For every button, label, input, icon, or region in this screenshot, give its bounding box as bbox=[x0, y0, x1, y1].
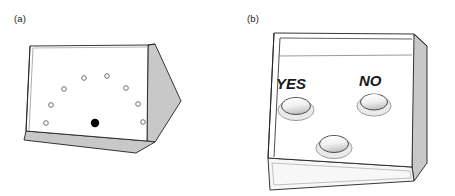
no-button-cap bbox=[361, 94, 388, 110]
open-marker bbox=[124, 86, 129, 91]
open-marker bbox=[141, 120, 146, 125]
open-marker bbox=[136, 102, 141, 107]
no-button-label: NO bbox=[359, 72, 382, 89]
box-b-right-face bbox=[412, 34, 427, 181]
filled-marker bbox=[91, 119, 99, 127]
panel-b: (b) bbox=[228, 0, 455, 196]
panel-b-drawing: YES NO bbox=[228, 0, 455, 196]
box-a-right-face bbox=[147, 44, 181, 142]
open-marker bbox=[49, 103, 54, 108]
open-marker bbox=[82, 76, 87, 81]
open-marker bbox=[105, 74, 110, 79]
yes-button-label: YES bbox=[276, 75, 306, 92]
panel-a: (a) bbox=[0, 0, 227, 196]
third-button-cap bbox=[320, 136, 349, 153]
panel-a-drawing bbox=[0, 0, 227, 196]
figure-root: (a) bbox=[0, 0, 455, 196]
open-marker bbox=[44, 121, 49, 126]
yes-button-cap bbox=[282, 98, 311, 115]
box-a-top-face bbox=[26, 45, 148, 141]
open-marker bbox=[62, 87, 67, 92]
